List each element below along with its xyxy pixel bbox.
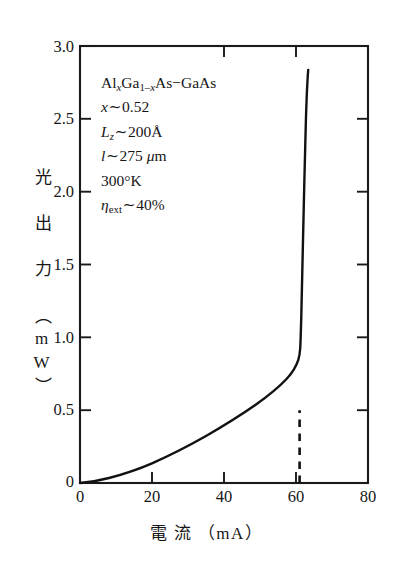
x-axis-title: 電 流 （mA）: [150, 519, 263, 544]
figure-panel: 3.0 2.5 2.0 1.5 1.0 0.5 0 0 20 40 60 80 …: [0, 0, 413, 564]
xtick-label-80: 80: [348, 487, 388, 507]
ytick-label-2-5: 2.5: [28, 109, 74, 129]
x-axis-ticks-top: [224, 46, 296, 57]
y-axis-title: 光 出 力 （mW）: [20, 168, 50, 399]
annotation-line-external-efficiency: ηext∼40%: [101, 193, 216, 217]
annotation-line-material-system: AlxGa1–xAs−GaAs: [101, 71, 216, 95]
annotation-line-temperature: 300°K: [101, 169, 216, 193]
ytick-label-0-5: 0.5: [28, 400, 74, 420]
xtick-label-0: 0: [60, 487, 100, 507]
xtick-label-40: 40: [204, 487, 244, 507]
x-axis-ticks-bottom: [152, 472, 296, 483]
annotation-line-composition: x∼0.52: [101, 95, 216, 119]
annotation-line-cavity-length: l∼275 μm: [101, 144, 216, 168]
ytick-label-3-0: 3.0: [28, 37, 74, 57]
y-axis-ticks-left: [80, 46, 91, 410]
annotation-line-well-width: Lz∼200Å: [101, 120, 216, 144]
xtick-label-60: 60: [276, 487, 316, 507]
xtick-label-20: 20: [132, 487, 172, 507]
device-parameters-annotation: AlxGa1–xAs−GaAs x∼0.52 Lz∼200Å l∼275 μm …: [101, 71, 216, 217]
y-axis-ticks-right: [357, 119, 368, 410]
